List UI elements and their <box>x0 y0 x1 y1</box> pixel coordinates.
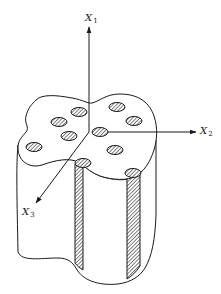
exposed-fiber-strip-2 <box>127 174 140 279</box>
axis-x1-label: X1 <box>85 13 98 25</box>
axis-x2-subscript: 2 <box>208 130 212 138</box>
axis-x1-subscript: 1 <box>93 17 97 25</box>
fiber-end <box>125 169 141 178</box>
figure: X1 X2 X3 <box>0 0 221 294</box>
fiber-end <box>71 108 87 117</box>
exposed-fiber-strip-1 <box>75 164 83 270</box>
axis-x3-symbol: X <box>22 206 29 217</box>
axis-x3-subscript: 3 <box>30 211 34 219</box>
fiber-end <box>61 132 77 141</box>
composite-cylinder-diagram <box>0 0 221 294</box>
fiber-end <box>26 143 42 152</box>
axis-x2-label: X2 <box>200 126 213 138</box>
fiber-end <box>51 118 67 127</box>
fiber-end <box>107 146 123 155</box>
fiber-end <box>92 128 108 137</box>
axis-x1-symbol: X <box>85 12 92 23</box>
axis-x2-symbol: X <box>200 125 207 136</box>
fiber-end <box>109 103 125 112</box>
fiber-end <box>75 159 91 168</box>
fiber-end <box>126 117 142 126</box>
axis-x3-label: X3 <box>22 207 35 219</box>
